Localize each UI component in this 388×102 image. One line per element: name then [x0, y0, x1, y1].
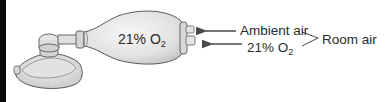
face-mask — [14, 53, 82, 88]
bag-oxygen-label: 21% O2 — [118, 31, 166, 49]
valve-connector — [39, 31, 84, 57]
bag-valve-mask-illustration — [0, 0, 388, 102]
ambient-air-label: Ambient air — [240, 23, 308, 38]
oxygen-percent-label: 21% O2 — [247, 40, 293, 57]
intake-valve — [180, 22, 195, 54]
room-air-label: Room air — [322, 32, 377, 47]
